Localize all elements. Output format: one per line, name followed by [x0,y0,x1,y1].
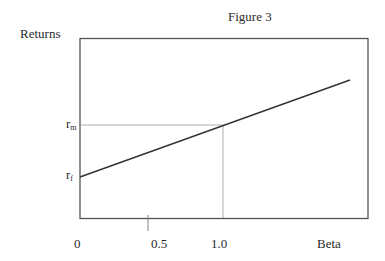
x-axis-label: Beta [317,236,341,251]
rf-label: rf [66,167,73,183]
x-tick-1-0: 1.0 [211,236,227,251]
plot-frame [80,39,368,219]
x-tick-0-5: 0.5 [151,236,167,251]
x-tick-0: 0 [74,236,81,251]
figure-title: Figure 3 [228,9,272,24]
rm-label: rm [66,116,77,132]
security-market-line [80,80,350,177]
capm-diagram: Figure 3 Returns rm rf 0 0.5 1.0 Beta [0,0,385,261]
y-axis-label: Returns [20,26,60,41]
